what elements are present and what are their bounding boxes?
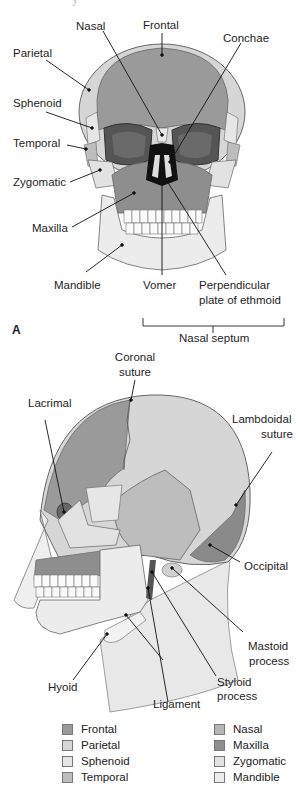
legend-label: Mandible [233,771,280,783]
label-mastoid-process-line2: process [249,655,289,668]
swatch-nasal [214,724,225,735]
legend-label: Sphenoid [81,755,130,767]
label-frontal: Frontal [143,19,179,32]
label-ligament: Ligament [153,698,200,711]
label-perpendicular-plate-line1: Perpendicular [199,279,270,292]
label-maxilla: Maxilla [32,222,68,235]
label-coronal-suture-line2: suture [114,366,156,379]
swatch-temporal [62,772,73,783]
label-nasal: Nasal [76,20,105,33]
label-sphenoid: Sphenoid [13,97,62,110]
swatch-frontal [62,724,73,735]
swatch-maxilla [214,740,225,751]
legend-item-frontal: Frontal [62,722,117,736]
legend-item-parietal: Parietal [62,738,120,752]
legend-item-nasal: Nasal [214,722,262,736]
label-lambdoidal-suture-line2: suture [261,428,293,441]
legend-item-temporal: Temporal [62,770,128,784]
swatch-mandible [214,772,225,783]
label-zygomatic: Zygomatic [13,176,66,189]
label-perpendicular-plate-line2: plate of ethmoid [199,294,281,307]
legend-label: Zygomatic [233,755,286,767]
label-styloid-process-line2: process [217,690,257,703]
swatch-zygomatic [214,756,225,767]
label-vomer: Vomer [143,279,176,292]
label-nasal-septum: Nasal septum [179,332,249,345]
legend-label: Nasal [233,723,262,735]
label-mandible: Mandible [54,279,101,292]
swatch-sphenoid [62,756,73,767]
swatch-parietal [62,740,73,751]
label-hyoid: Hyoid [48,681,77,694]
label-lacrimal: Lacrimal [28,397,71,410]
legend-item-mandible: Mandible [214,770,280,784]
label-temporal: Temporal [13,137,60,150]
legend-label: Parietal [81,739,120,751]
label-mastoid-process-line1: Mastoid [248,640,288,653]
skull-illustrations [0,0,298,786]
legend-item-zygomatic: Zygomatic [214,754,286,768]
legend-label: Frontal [81,723,117,735]
label-conchae: Conchae [223,32,269,45]
label-coronal-suture-line1: Coronal [114,351,156,364]
panel-label-a: A [12,324,21,337]
legend-label: Temporal [81,771,128,783]
label-occipital: Occipital [244,560,288,573]
legend-item-maxilla: Maxilla [214,738,269,752]
legend-item-sphenoid: Sphenoid [62,754,130,768]
lateral-skull [14,380,272,712]
legend-label: Maxilla [233,739,269,751]
label-parietal: Parietal [13,47,52,60]
label-lambdoidal-suture-line1: Lambdoidal [232,413,291,426]
label-styloid-process-line1: Styloid [217,676,252,689]
